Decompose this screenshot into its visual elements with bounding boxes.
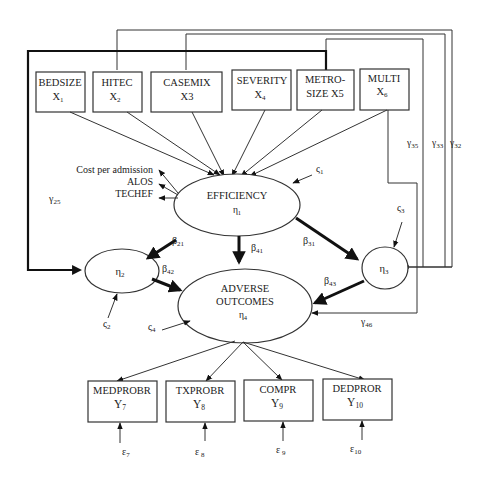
gamma33-label: γ33 (431, 138, 444, 150)
beta21-label: β21 (172, 235, 185, 248)
box-hitec: HITEC X2 (93, 72, 142, 112)
svg-text:COMPR: COMPR (260, 384, 297, 395)
box-medprobr: MEDPROBR Y7 (88, 381, 157, 422)
svg-text:OUTCOMES: OUTCOMES (216, 296, 274, 307)
indicator-alos: ALOS (127, 176, 153, 187)
svg-text:METRO-: METRO- (305, 74, 346, 85)
path-beta42 (152, 279, 180, 290)
zeta2-label: ς2 (103, 318, 111, 331)
svg-text:SIZE X5: SIZE X5 (306, 88, 344, 99)
svg-text:ADVERSE: ADVERSE (221, 283, 269, 294)
gamma32-label: γ32 (449, 138, 462, 150)
svg-text:MEDPROBR: MEDPROBR (93, 385, 151, 396)
beta31-label: β31 (303, 235, 316, 248)
gamma35-label: γ35 (406, 138, 419, 150)
epsilon10-label: ε10 (350, 443, 362, 456)
box-txprobr: TXPROBR Y8 (166, 381, 235, 422)
epsilon8-label: ε 8 (195, 446, 205, 459)
zeta4-label: ς4 (148, 321, 156, 334)
box-compr: COMPR Y9 (244, 380, 313, 421)
epsilon9-label: ε 9 (276, 444, 286, 457)
zeta1-label: ς1 (316, 163, 324, 176)
gamma46-label: γ46 (360, 317, 373, 329)
box-casemix: CASEMIX X3 (151, 72, 222, 112)
svg-text:CASEMIX: CASEMIX (163, 77, 211, 88)
indicator-cost-per-admission: Cost per admission (76, 164, 153, 175)
box-metrosize: METRO- SIZE X5 (297, 70, 354, 110)
indicator-techef: TECHEF (115, 188, 153, 199)
box-severity: SEVERITY X4 (232, 70, 291, 110)
svg-text:MULTI: MULTI (368, 73, 401, 84)
path-gamma32 (117, 30, 452, 267)
zeta3-label: ς3 (397, 202, 405, 215)
beta43-label: β43 (324, 275, 337, 288)
box-multi: MULTI X6 (360, 69, 409, 110)
arrow-x4-eta1 (232, 110, 265, 176)
svg-text:HITEC: HITEC (102, 77, 133, 88)
latent-adverse-outcomes: ADVERSE OUTCOMES η4 (178, 269, 312, 343)
box-dedpror: DEDPROR Y10 (323, 379, 392, 420)
svg-text:BEDSIZE: BEDSIZE (38, 77, 81, 88)
gamma25-label: γ25 (48, 193, 61, 206)
box-bedsize: BEDSIZE X1 (36, 72, 85, 112)
beta42-label: β42 (162, 263, 175, 276)
svg-text:DEDPROR: DEDPROR (332, 383, 381, 394)
epsilon7-label: ε7 (122, 446, 130, 459)
svg-text:SEVERITY: SEVERITY (237, 75, 288, 86)
sem-diagram: BEDSIZE X1 HITEC X2 CASEMIX X3 SEVERITY … (0, 0, 493, 484)
path-beta43 (315, 281, 364, 303)
svg-text:EFFICIENCY: EFFICIENCY (207, 190, 268, 201)
latent-eta2: η2 (85, 249, 159, 293)
beta41-label: β41 (251, 242, 264, 255)
svg-text:TXPROBR: TXPROBR (176, 385, 224, 396)
svg-text:X3: X3 (181, 91, 194, 102)
arrow-x5-eta1 (241, 110, 322, 176)
latent-eta3: η3 (362, 247, 408, 289)
latent-efficiency: EFFICIENCY η1 (174, 174, 300, 236)
